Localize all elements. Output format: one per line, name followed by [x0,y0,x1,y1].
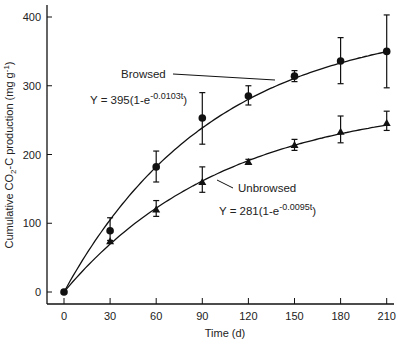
browsed-equation: Y = 395(1-e-0.0103t) [90,91,187,106]
unbrowsed-point-triangle-icon [383,119,391,126]
y-tick-label: 200 [23,149,41,161]
browsed-point-circle-icon [383,48,391,56]
x-tick-label: 0 [61,310,67,322]
browsed-point-circle-icon [106,227,114,235]
browsed-eq-suffix: ) [183,94,187,106]
unbrowsed-eq-prefix: Y = 281(1-e [219,205,279,217]
browsed-eq-prefix: Y = 395(1-e [90,94,150,106]
browsed-leader-line [173,74,275,80]
browsed-point-circle-icon [291,72,299,80]
browsed-point-circle-icon [199,114,207,122]
y-tick-label: 400 [23,11,41,23]
unbrowsed-equation: Y = 281(1-e-0.0095t) [219,202,316,217]
browsed-point-circle-icon [245,92,253,100]
x-tick-label: 210 [378,310,396,322]
y-axis-title: Cumulative CO2-C production (mg g-1) [2,61,18,248]
y-tick-label: 0 [35,286,41,298]
browsed-point-circle-icon [60,288,68,296]
x-tick-label: 90 [196,310,208,322]
x-axis-title: Time (d) [205,327,246,339]
unbrowsed-eq-suffix: ) [312,205,316,217]
unbrowsed-eq-exp: -0.0095t [279,202,313,212]
cumulative-co2-chart: 01002003004000306090120150180210 Browsed… [0,0,397,345]
browsed-label: Browsed [121,68,166,80]
unbrowsed-point-triangle-icon [337,128,345,135]
y-title-main: Cumulative CO [3,174,15,249]
y-tick-label: 300 [23,80,41,92]
x-tick-label: 120 [239,310,257,322]
unbrowsed-label: Unbrowsed [238,182,296,194]
browsed-fit-curve [64,52,387,292]
x-tick-label: 60 [150,310,162,322]
y-tick-label: 100 [23,217,41,229]
y-title-end: ) [3,61,15,65]
y-title-mid: -C production (mg g [3,72,15,169]
fit-curves [64,52,387,292]
unbrowsed-leader-line [217,180,233,188]
x-tick-label: 180 [331,310,349,322]
browsed-point-circle-icon [337,57,345,65]
browsed-point-circle-icon [152,163,160,171]
browsed-eq-exp: -0.0103t [150,91,184,101]
x-tick-label: 150 [285,310,303,322]
data-markers [60,48,391,296]
x-tick-label: 30 [104,310,116,322]
